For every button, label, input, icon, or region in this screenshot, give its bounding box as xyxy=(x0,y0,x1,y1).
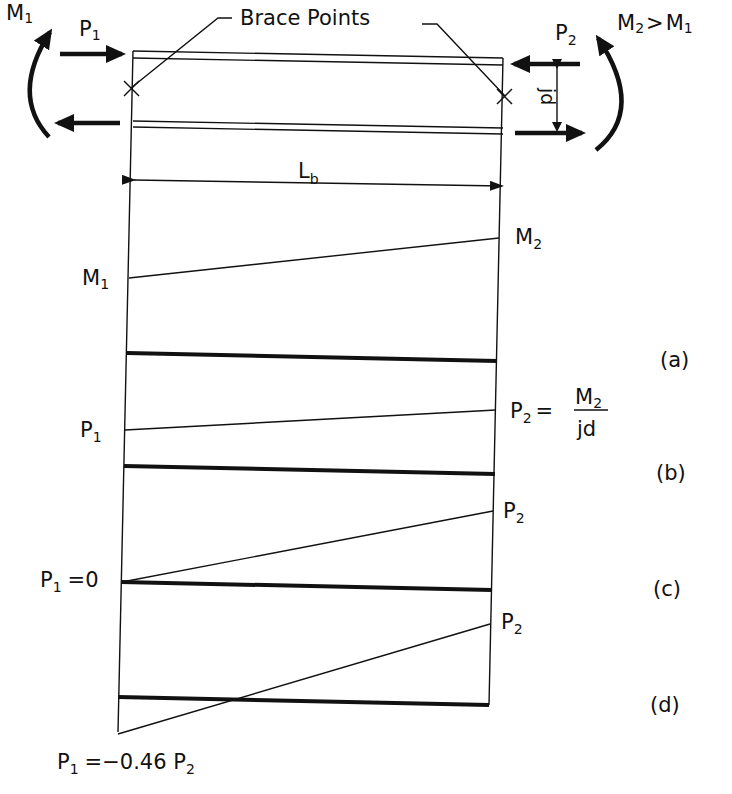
m2-moment-arrow-icon xyxy=(596,38,622,150)
panel-b-force-line xyxy=(125,410,496,430)
panel-c-flange-force-diagram: P1=0 P2 (c) xyxy=(40,499,681,601)
panel-d-baseline xyxy=(118,697,489,705)
beam-elevation xyxy=(133,51,503,134)
panel-d-force-line xyxy=(118,624,490,734)
panel-c-right-label: P2 xyxy=(503,499,525,526)
panel-b-fraction-denominator: jd xyxy=(576,417,596,441)
panel-b-flange-force-diagram: P1 P2= M2 jd (b) xyxy=(80,385,686,485)
panel-b-fraction-numerator: M2 xyxy=(575,385,602,411)
top-flange-edge-1 xyxy=(133,51,503,58)
p1-label: P1 xyxy=(79,17,101,43)
span-label: Lb xyxy=(298,159,319,187)
brace-diagram: Brace Points Lb M1 P1 jd P2 M2>M1 xyxy=(0,0,732,794)
moment-gradient-line xyxy=(129,238,499,278)
jd-label: jd xyxy=(537,87,559,105)
panel-c-tag: (c) xyxy=(653,577,681,601)
panel-c-left-label: P1=0 xyxy=(40,568,99,595)
panel-a-baseline xyxy=(127,353,497,361)
m1-label: M1 xyxy=(6,1,33,26)
panel-a-moment-diagram: M1 M2 (a) xyxy=(82,225,689,372)
left-end-actions: M1 P1 xyxy=(6,1,122,137)
panel-a-right-label: M2 xyxy=(515,225,542,252)
brace-point-right xyxy=(497,89,512,104)
panel-d-left-label: P1=−0.46 P2 xyxy=(57,750,195,777)
bottom-flange-edge-1 xyxy=(133,121,503,128)
panel-d-flange-force-diagram: P1=−0.46 P2 P2 (d) xyxy=(57,610,680,777)
panel-d-right-label: P2 xyxy=(501,610,523,637)
top-flange-edge-2 xyxy=(133,58,503,65)
right-end-actions: jd P2 M2>M1 xyxy=(514,11,693,150)
left-boundary-line xyxy=(118,51,133,732)
panel-c-force-line xyxy=(122,511,493,582)
panel-d-tag: (d) xyxy=(650,693,680,717)
m2-greater-than-m1-label: M2>M1 xyxy=(617,11,693,36)
panel-a-left-label: M1 xyxy=(82,266,109,292)
panel-c-baseline xyxy=(121,582,492,590)
panel-b-baseline xyxy=(124,466,495,474)
p2-label: P2 xyxy=(555,21,577,48)
brace-points-label: Brace Points xyxy=(240,6,370,30)
panel-b-right-label: P2= xyxy=(510,399,553,426)
bottom-flange-edge-2 xyxy=(133,127,503,134)
m1-moment-arrow-icon xyxy=(30,32,50,137)
panel-b-left-label: P1 xyxy=(80,418,102,445)
panel-b-tag: (b) xyxy=(656,461,686,485)
panel-a-tag: (a) xyxy=(660,348,689,372)
right-boundary-line xyxy=(489,58,503,705)
leader-line-right xyxy=(422,24,505,96)
